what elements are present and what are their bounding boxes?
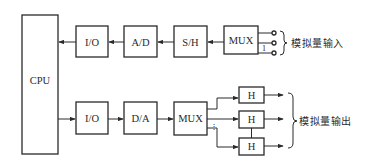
sh-label: S/H <box>182 37 199 48</box>
hold-2-label: H <box>248 114 256 125</box>
analog-input-label: 模拟量输入 <box>291 37 344 49</box>
sh-block: S/H <box>174 26 207 57</box>
ad-block: A/D <box>124 26 157 57</box>
ad-label: A/D <box>131 37 150 48</box>
da-block: D/A <box>124 102 157 134</box>
hold-1-label: H <box>248 90 256 101</box>
output-brace <box>288 93 297 148</box>
input-terminal-2 <box>272 41 276 45</box>
io-in-label: I/O <box>85 37 99 48</box>
io-out-label: I/O <box>85 113 99 124</box>
mux-in-block: MUX <box>224 26 258 54</box>
cpu-block: CPU <box>22 15 58 154</box>
hold-block-2: H <box>239 111 264 128</box>
route-to-h1 <box>207 98 238 109</box>
da-label: D/A <box>131 113 150 124</box>
output-chain: I/O D/A MUX ⋮ H H H <box>58 87 352 155</box>
input-channel-marker: 1 <box>262 44 266 53</box>
mux-out-label: MUX <box>178 113 203 124</box>
input-terminal-1 <box>272 31 276 35</box>
hold-block-3: H <box>239 138 264 155</box>
io-in-block: I/O <box>76 26 108 57</box>
cpu-label: CPU <box>30 75 51 86</box>
input-terminal-3 <box>272 51 276 55</box>
mux-in-label: MUX <box>229 35 254 46</box>
io-out-block: I/O <box>76 102 108 134</box>
output-channel-marker: ⋮ <box>210 122 218 131</box>
analog-output-label: 模拟量输出 <box>299 115 352 127</box>
hold-block-1: H <box>239 87 264 103</box>
input-chain: I/O A/D S/H MUX 1 模拟量输入 <box>59 26 344 57</box>
mux-out-block: MUX <box>174 102 207 135</box>
input-brace <box>280 31 287 55</box>
data-acquisition-block-diagram: CPU I/O A/D S/H MUX 1 <box>0 0 367 166</box>
hold-3-label: H <box>248 141 256 152</box>
